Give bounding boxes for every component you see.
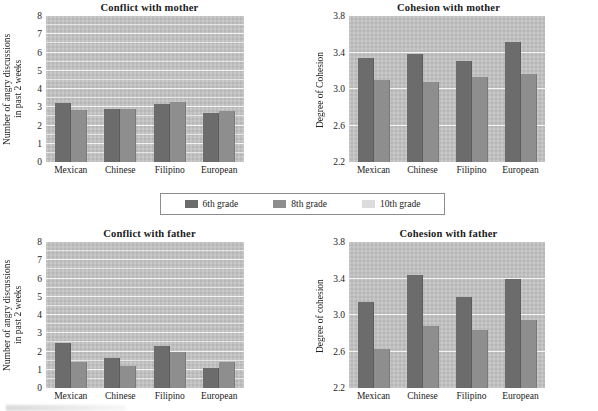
y-tick-label: 3.4 (333, 274, 345, 284)
bar-group (55, 242, 87, 388)
legend-item: 10th grade (362, 199, 420, 209)
bar (203, 368, 219, 388)
legend-label: 6th grade (203, 199, 239, 209)
bar (423, 326, 439, 388)
bar (203, 113, 219, 162)
legend-label: 8th grade (291, 199, 327, 209)
legend-item: 8th grade (273, 199, 327, 209)
bar-group (407, 242, 439, 388)
bar-group (407, 16, 439, 162)
x-tick-label: Filipino (145, 391, 195, 401)
legend-swatch (273, 200, 286, 208)
y-tick-label: 2.6 (333, 121, 345, 131)
bar (521, 320, 537, 388)
bar (407, 54, 423, 162)
bar (472, 330, 488, 388)
plot-area (349, 16, 545, 162)
y-tick-label: 5 (37, 66, 42, 76)
x-tick-label: Mexican (46, 391, 96, 401)
bar (71, 362, 87, 388)
legend-label: 10th grade (380, 199, 420, 209)
y-axis-ticks: 2.22.63.03.43.8 (309, 16, 345, 162)
y-tick-label: 0 (37, 157, 42, 167)
bar-groups (349, 242, 545, 388)
chart-title: Conflict with father (0, 228, 299, 239)
bar (219, 362, 235, 388)
bar-groups (46, 16, 244, 162)
plot-area (46, 16, 244, 162)
y-tick-label: 2.2 (333, 157, 345, 167)
x-tick-label: Filipino (447, 165, 496, 175)
bar (55, 103, 71, 162)
y-tick-label: 3.8 (333, 11, 345, 21)
bar (170, 352, 186, 389)
chart-panel-cohesion-with-mother: Cohesion with mother Degree of Cohesion … (299, 0, 598, 185)
y-tick-label: 3.0 (333, 310, 345, 320)
x-tick-label: Mexican (349, 165, 398, 175)
bar (505, 279, 521, 389)
bar (55, 343, 71, 388)
bar (120, 109, 136, 162)
bar (170, 102, 186, 162)
x-tick-label: Chinese (96, 165, 146, 175)
x-tick-label: Mexican (46, 165, 96, 175)
bar-group (505, 242, 537, 388)
y-tick-label: 0 (37, 383, 42, 393)
x-axis-labels: MexicanChineseFilipinoEuropean (349, 391, 545, 401)
x-tick-label: Filipino (145, 165, 195, 175)
bar-groups (46, 242, 244, 388)
x-axis-labels: MexicanChineseFilipinoEuropean (46, 165, 244, 175)
bar (374, 349, 390, 388)
bar (104, 109, 120, 162)
bar-group (104, 16, 136, 162)
x-tick-label: Chinese (96, 391, 146, 401)
bar-group (456, 242, 488, 388)
y-tick-label: 2.2 (333, 383, 345, 393)
bar (358, 302, 374, 388)
plot-area (349, 242, 545, 388)
bar (358, 58, 374, 162)
y-tick-label: 4 (37, 84, 42, 94)
bar (472, 77, 488, 162)
chart-title: Conflict with mother (0, 2, 299, 13)
bar-group (203, 16, 235, 162)
x-tick-label: Mexican (349, 391, 398, 401)
x-axis-labels: MexicanChineseFilipinoEuropean (349, 165, 545, 175)
bar (154, 104, 170, 162)
bar (423, 82, 439, 162)
y-tick-label: 4 (37, 310, 42, 320)
y-tick-label: 7 (37, 29, 42, 39)
bar (374, 80, 390, 162)
x-tick-label: European (195, 165, 245, 175)
bar (120, 366, 136, 388)
bar-group (55, 16, 87, 162)
bar-groups (349, 16, 545, 162)
y-tick-label: 2 (37, 121, 42, 131)
bar-group (505, 16, 537, 162)
legend-row: 6th grade8th grade10th grade (0, 185, 598, 226)
y-tick-label: 5 (37, 292, 42, 302)
bar-group (104, 242, 136, 388)
y-tick-label: 3.0 (333, 84, 345, 94)
y-tick-label: 3 (37, 328, 42, 338)
y-tick-label: 1 (37, 365, 42, 375)
y-tick-label: 3.8 (333, 237, 345, 247)
x-axis-labels: MexicanChineseFilipinoEuropean (46, 391, 244, 401)
bar (456, 61, 472, 162)
bar-group (358, 16, 390, 162)
bar-group (203, 242, 235, 388)
y-tick-label: 8 (37, 11, 42, 21)
y-tick-label: 8 (37, 237, 42, 247)
bar (154, 346, 170, 388)
y-tick-label: 1 (37, 139, 42, 149)
legend-swatch (362, 200, 375, 208)
x-tick-label: European (496, 165, 545, 175)
legend-swatch (185, 200, 198, 208)
page-artifact (6, 405, 126, 411)
bar (456, 297, 472, 388)
bar (505, 42, 521, 162)
chart-panel-cohesion-with-father: Cohesion with father Degree of cohesion … (299, 226, 598, 411)
chart-panel-conflict-with-mother: Conflict with mother Number of angry dis… (0, 0, 299, 185)
legend-item: 6th grade (185, 199, 239, 209)
y-tick-label: 6 (37, 48, 42, 58)
